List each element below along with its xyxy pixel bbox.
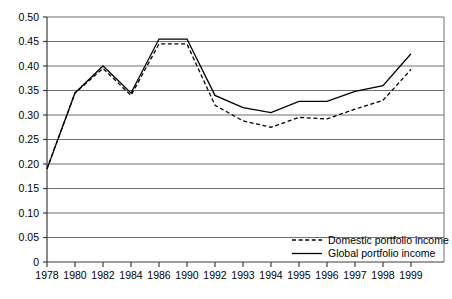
y-tick-label: 0.15 xyxy=(19,182,40,194)
x-tick-label: 1980 xyxy=(63,269,87,281)
y-tick-label: 0.45 xyxy=(19,35,40,47)
x-tick-label: 1994 xyxy=(259,269,283,281)
x-tick-label: 1999 xyxy=(399,269,423,281)
x-tick-label: 1995 xyxy=(287,269,311,281)
x-tick-label: 1996 xyxy=(315,269,339,281)
y-tick-label: 0.05 xyxy=(19,231,40,243)
y-tick-label: 0.10 xyxy=(19,207,40,219)
x-tick-label: 1982 xyxy=(91,269,115,281)
x-tick-label: 1997 xyxy=(343,269,367,281)
line-chart: 0.500.450.400.350.300.250.200.150.100.05… xyxy=(0,0,452,299)
y-tick-label: 0 xyxy=(33,256,39,268)
legend-label: Domestic portfolio income xyxy=(328,234,449,246)
x-tick-label: 1998 xyxy=(371,269,395,281)
y-tick-label: 0.25 xyxy=(19,133,40,145)
y-tick-label: 0.40 xyxy=(19,60,40,72)
y-tick-label: 0.20 xyxy=(19,158,40,170)
x-tick-label: 1992 xyxy=(203,269,227,281)
x-tick-label: 1978 xyxy=(35,269,59,281)
x-tick-label: 1993 xyxy=(231,269,255,281)
y-tick-label: 0.50 xyxy=(19,11,40,23)
x-tick-label: 1984 xyxy=(119,269,143,281)
x-tick-label: 1986 xyxy=(147,269,171,281)
x-tick-label: 1990 xyxy=(175,269,199,281)
y-tick-label: 0.35 xyxy=(19,84,40,96)
chart-container: 0.500.450.400.350.300.250.200.150.100.05… xyxy=(0,0,452,299)
legend-label: Global portfolio income xyxy=(328,247,436,259)
y-tick-label: 0.30 xyxy=(19,109,40,121)
